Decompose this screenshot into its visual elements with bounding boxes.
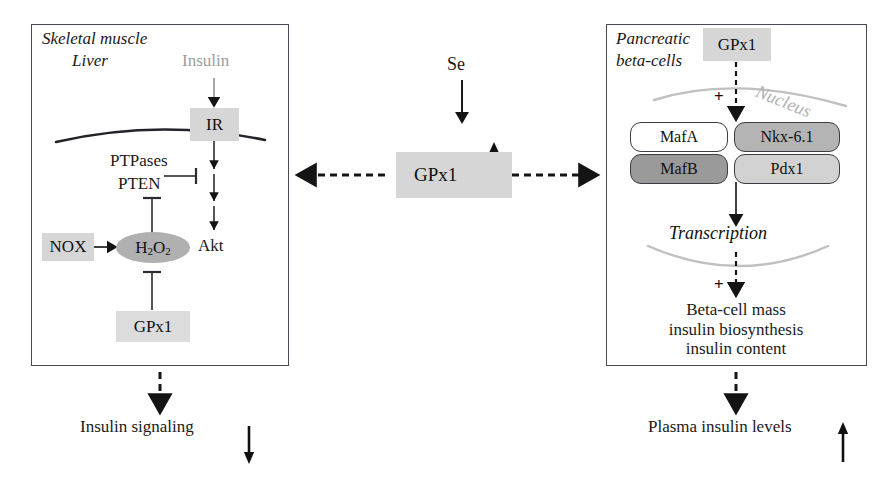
tf-label-nkx61: Nkx-6.1 — [761, 128, 814, 146]
trend-arrow-insulin-signaling-down — [244, 426, 254, 464]
insulin-signaling-outcome: Insulin signaling — [80, 418, 194, 436]
gpx1-label-center: GPx1 — [414, 164, 457, 186]
trend-arrow-plasma-insulin-up — [838, 422, 848, 462]
gpx1-label-left: GPx1 — [134, 317, 173, 337]
h2o2-label: H2O2 — [135, 238, 171, 258]
plus-sign-transcription-output: + — [714, 276, 724, 294]
beta-cell-outputs: Beta-cell mass insulin biosynthesis insu… — [669, 300, 804, 359]
plus-sign-nucleus-entry: + — [714, 88, 724, 106]
tf-pill-mafa[interactable]: MafA — [630, 122, 728, 152]
gpx1-node-center[interactable]: GPx1 — [396, 152, 512, 198]
nox-node[interactable]: NOX — [42, 233, 94, 261]
tf-pill-nkx61[interactable]: Nkx-6.1 — [734, 122, 840, 152]
tf-label-mafb: MafB — [660, 160, 697, 178]
insulin-label: Insulin — [182, 52, 229, 70]
tf-pill-pdx1[interactable]: Pdx1 — [734, 154, 840, 184]
plasma-insulin-outcome: Plasma insulin levels — [648, 418, 792, 436]
tf-pill-mafb[interactable]: MafB — [630, 154, 728, 184]
pten-label: PTEN — [118, 175, 161, 193]
output-line-2: insulin biosynthesis — [669, 320, 804, 340]
ptpases-label: PTPases — [110, 152, 168, 170]
gpx1-node-left[interactable]: GPx1 — [116, 311, 190, 342]
gpx1-label-right: GPx1 — [718, 35, 757, 55]
ir-node[interactable]: IR — [190, 108, 239, 141]
transcription-label: Transcription — [669, 224, 767, 243]
h2o2-node[interactable]: H2O2 — [116, 232, 190, 263]
ir-label: IR — [206, 115, 223, 135]
tf-label-pdx1: Pdx1 — [771, 160, 804, 178]
output-line-3: insulin content — [669, 339, 804, 359]
output-line-1: Beta-cell mass — [669, 300, 804, 320]
tf-label-mafa: MafA — [660, 128, 698, 146]
akt-label: Akt — [198, 237, 224, 255]
nox-label: NOX — [50, 237, 87, 257]
right-panel-title-line1: Pancreatic — [616, 30, 690, 48]
selenium-label: Se — [447, 55, 465, 74]
diagram-canvas: Skeletal muscle Liver Insulin IR PTPases… — [0, 0, 896, 481]
gpx1-node-right[interactable]: GPx1 — [703, 28, 771, 61]
left-panel-title-line1: Skeletal muscle — [42, 30, 147, 48]
right-panel-title-line2: beta-cells — [616, 52, 682, 70]
left-panel-title-line2: Liver — [72, 52, 108, 70]
